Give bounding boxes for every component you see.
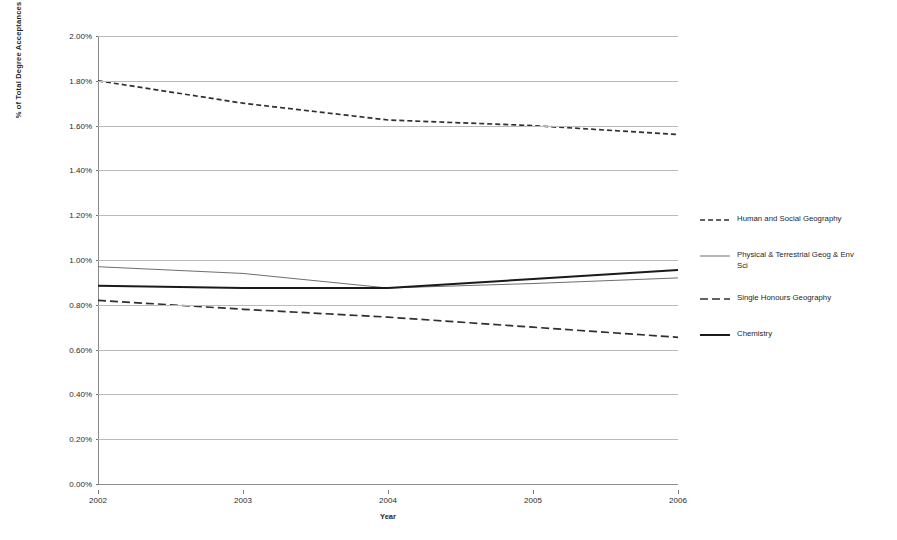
y-axis-tick-label: 2.00%: [46, 32, 92, 41]
x-axis-tick-label: 2006: [669, 496, 687, 505]
x-axis-title: Year: [98, 512, 678, 521]
y-axis-tick-labels: 0.00%0.20%0.40%0.60%0.80%1.00%1.20%1.40%…: [44, 36, 92, 484]
x-axis-tick-label: 2003: [234, 496, 252, 505]
gridline: [98, 81, 678, 82]
x-axis-tick-mark: [388, 490, 389, 494]
x-axis-tick-label: 2005: [524, 496, 542, 505]
x-axis-tick-mark: [243, 490, 244, 494]
legend-label: Single Honours Geography: [737, 293, 831, 304]
legend-entry[interactable]: Human and Social Geography: [700, 214, 890, 228]
y-axis-tick-label: 0.80%: [46, 300, 92, 309]
legend-entry[interactable]: Physical & Terrestrial Geog & Env Sci: [700, 250, 890, 271]
y-axis-tick-label: 0.00%: [46, 480, 92, 489]
legend-label: Chemistry: [737, 329, 772, 340]
gridline: [98, 484, 678, 485]
line-chart: % of Total Degree Acceptances 0.00%0.20%…: [0, 0, 897, 540]
gridline: [98, 350, 678, 351]
gridline: [98, 170, 678, 171]
y-axis-title: % of Total Degree Acceptances: [14, 0, 23, 160]
gridline: [98, 260, 678, 261]
gridline: [98, 215, 678, 216]
gridline: [98, 305, 678, 306]
plot-area: [98, 36, 678, 484]
x-axis-tick-label: 2002: [89, 496, 107, 505]
series-line: [98, 300, 678, 337]
legend-line-swatch-icon: [700, 250, 730, 262]
y-axis-tick-label: 1.00%: [46, 256, 92, 265]
x-axis-tick-label: 2004: [379, 496, 397, 505]
y-axis-tick-label: 1.80%: [46, 76, 92, 85]
series-line: [98, 267, 678, 288]
gridline: [98, 36, 678, 37]
y-axis-tick-label: 0.20%: [46, 435, 92, 444]
legend-label: Physical & Terrestrial Geog & Env Sci: [737, 250, 857, 271]
y-axis-tick-label: 0.60%: [46, 345, 92, 354]
legend-label: Human and Social Geography: [737, 214, 841, 225]
gridline: [98, 439, 678, 440]
x-axis-tick-mark: [533, 490, 534, 494]
x-axis-tick-labels: 20022003200420052006: [98, 490, 678, 506]
legend-entry[interactable]: Chemistry: [700, 329, 890, 343]
series-line: [98, 270, 678, 288]
gridline: [98, 394, 678, 395]
x-axis-tick-mark: [98, 490, 99, 494]
x-axis-tick-mark: [678, 490, 679, 494]
y-axis-tick-label: 0.40%: [46, 390, 92, 399]
gridline: [98, 126, 678, 127]
y-axis-tick-label: 1.60%: [46, 121, 92, 130]
legend-line-swatch-icon: [700, 329, 730, 341]
y-axis-tick-label: 1.20%: [46, 211, 92, 220]
legend-line-swatch-icon: [700, 293, 730, 305]
y-axis-tick-label: 1.40%: [46, 166, 92, 175]
legend-entry[interactable]: Single Honours Geography: [700, 293, 890, 307]
chart-legend: Human and Social GeographyPhysical & Ter…: [700, 214, 890, 365]
legend-line-swatch-icon: [700, 214, 730, 226]
